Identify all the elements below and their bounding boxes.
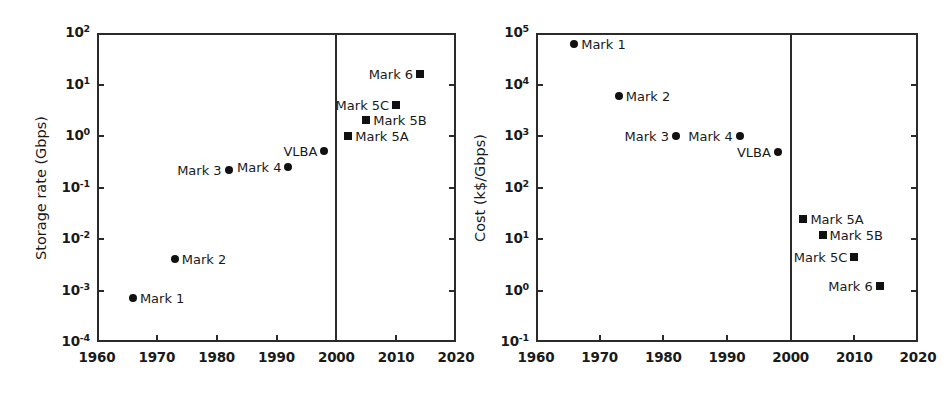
data-point-label: Mark 5C: [794, 250, 848, 263]
y-tick-right: [911, 290, 918, 292]
y-tick-label: 10-3: [61, 282, 90, 298]
data-point-marker: [736, 132, 744, 140]
data-point-marker: [362, 116, 370, 124]
y-tick-label: 100: [504, 282, 529, 298]
data-point-marker: [774, 148, 782, 156]
y-tick-label: 104: [504, 76, 529, 92]
x-tick: [853, 335, 855, 342]
x-tick-label: 1960: [67, 349, 127, 365]
x-tick-label: 1990: [697, 349, 757, 365]
x-tick-label: 1990: [247, 349, 307, 365]
y-tick-label: 101: [504, 230, 529, 246]
y-tick-label: 10-2: [61, 230, 90, 246]
y-tick-label: 102: [504, 179, 529, 195]
y-tick-right: [911, 84, 918, 86]
y-tick-label: 103: [504, 127, 529, 143]
data-point-label: Mark 2: [182, 253, 226, 266]
y-tick-right: [449, 290, 456, 292]
y-tick-right: [911, 187, 918, 189]
y-tick-right: [911, 238, 918, 240]
data-point-marker: [850, 253, 858, 261]
chart-panel-storage-rate: 10210110010-110-210-310-4196019701980199…: [0, 0, 473, 395]
x-tick-label: 2000: [761, 349, 821, 365]
y-tick-right: [449, 238, 456, 240]
data-point-label: Mark 3: [177, 163, 221, 176]
y-tick-left: [97, 238, 104, 240]
data-point-label: Mark 6: [369, 67, 413, 80]
data-point-marker: [320, 147, 328, 155]
x-tick-label: 2010: [824, 349, 884, 365]
x-tick: [662, 335, 664, 342]
y-axis-title-cost: Cost (k$/Gbps): [472, 134, 488, 242]
chart-panel-cost: 10510410310210110010-1196019701980199020…: [473, 0, 946, 395]
data-point-label: Mark 6: [828, 280, 872, 293]
y-tick-label: 101: [65, 76, 90, 92]
data-point-label: Mark 5B: [830, 228, 883, 241]
y-tick-right: [449, 135, 456, 137]
x-tick: [726, 335, 728, 342]
data-point-marker: [799, 215, 807, 223]
y-tick-left: [536, 135, 543, 137]
x-tick: [276, 335, 278, 342]
data-point-label: Mark 5A: [355, 130, 408, 143]
y-tick-left: [97, 187, 104, 189]
data-point-label: Mark 1: [581, 38, 625, 51]
y-tick-left: [536, 187, 543, 189]
data-point-label: Mark 5B: [373, 114, 426, 127]
figure-container: 10210110010-110-210-310-4196019701980199…: [0, 0, 946, 395]
x-tick: [395, 335, 397, 342]
divider-year-2000: [335, 33, 337, 342]
y-tick-label: 10-1: [500, 333, 529, 349]
data-point-label: Mark 4: [237, 161, 281, 174]
y-tick-left: [536, 238, 543, 240]
x-tick-label: 2020: [888, 349, 946, 365]
x-tick-label: 2010: [366, 349, 426, 365]
y-tick-right: [449, 187, 456, 189]
x-tick-label: 2000: [306, 349, 366, 365]
y-axis-title-storage-rate: Storage rate (Gbps): [33, 116, 49, 260]
data-point-label: Mark 4: [688, 130, 732, 143]
x-tick-label: 1980: [187, 349, 247, 365]
y-tick-left: [97, 84, 104, 86]
x-tick: [156, 335, 158, 342]
y-tick-label: 10-1: [61, 179, 90, 195]
data-point-marker: [225, 166, 233, 174]
data-point-label: Mark 5C: [336, 98, 390, 111]
x-tick-label: 1970: [127, 349, 187, 365]
x-tick: [216, 335, 218, 342]
data-point-marker: [876, 282, 884, 290]
data-point-marker: [392, 101, 400, 109]
data-point-marker: [615, 92, 623, 100]
data-point-label: Mark 2: [626, 89, 670, 102]
divider-year-2000: [790, 33, 792, 342]
y-tick-right: [449, 84, 456, 86]
y-tick-left: [536, 290, 543, 292]
data-point-marker: [416, 70, 424, 78]
y-tick-right: [911, 135, 918, 137]
y-tick-label: 10-4: [61, 333, 90, 349]
y-tick-label: 102: [65, 24, 90, 40]
y-tick-left: [97, 135, 104, 137]
data-point-label: VLBA: [737, 145, 771, 158]
x-tick-label: 1980: [633, 349, 693, 365]
data-point-label: Mark 5A: [810, 212, 863, 225]
x-tick: [599, 335, 601, 342]
data-point-label: Mark 1: [140, 292, 184, 305]
data-point-marker: [819, 231, 827, 239]
y-tick-label: 100: [65, 127, 90, 143]
x-tick-label: 1960: [506, 349, 566, 365]
plot-frame-cost: [536, 33, 918, 342]
y-tick-left: [97, 290, 104, 292]
data-point-marker: [672, 132, 680, 140]
data-point-label: Mark 3: [625, 130, 669, 143]
x-tick-label: 1970: [570, 349, 630, 365]
data-point-label: VLBA: [283, 144, 317, 157]
data-point-marker: [344, 132, 352, 140]
y-tick-label: 105: [504, 24, 529, 40]
y-tick-left: [536, 84, 543, 86]
